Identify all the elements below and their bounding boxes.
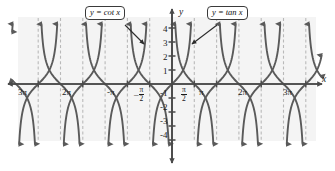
ytick-minus2: -2: [160, 102, 168, 112]
x-axis-label: x: [322, 74, 326, 84]
trig-graph-figure: y = cot x y = tan x y x 4 3 2 1 -1 -2 -3…: [0, 0, 335, 171]
ytick-1: 1: [163, 66, 168, 76]
xtick-minus-2pi: 2π: [62, 87, 71, 97]
cot-label-callout: y = cot x: [85, 6, 125, 20]
xtick-minus-pi: -π: [107, 87, 115, 97]
xtick-minus-3pi: 3π: [18, 87, 27, 97]
ytick-minus3: -3: [160, 116, 168, 126]
ytick-4: 4: [163, 24, 168, 34]
ytick-2: 2: [163, 52, 168, 62]
half-pi-fraction: π 2: [139, 86, 145, 102]
xtick-half-pi: π 2: [181, 86, 187, 102]
ytick-minus4: -4: [160, 130, 168, 140]
y-axis-label: y: [179, 7, 183, 17]
ytick-3: 3: [163, 38, 168, 48]
xtick-3pi: 3π: [283, 87, 292, 97]
half-pi-fraction-positive: π 2: [181, 86, 187, 102]
xtick-minus-half-pi: – π 2: [134, 86, 144, 102]
xtick-pi: π: [199, 87, 204, 97]
tan-leader-line: [192, 25, 217, 44]
tan-label-callout: y = tan x: [207, 6, 248, 20]
trig-curve-branch: [309, 24, 322, 77]
xtick-2pi: 2π: [238, 87, 247, 97]
ytick-minus1: -1: [160, 88, 168, 98]
